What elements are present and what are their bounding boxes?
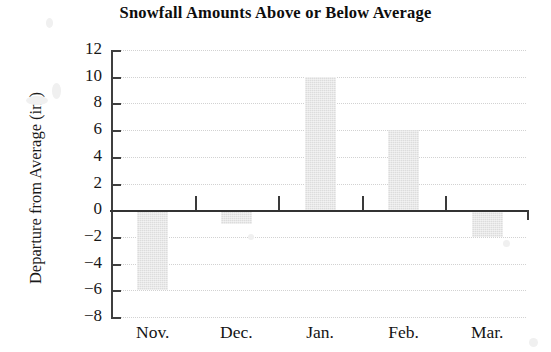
scan-speckle <box>46 18 53 28</box>
y-axis-tick <box>111 264 121 266</box>
y-axis-tick-label: −4 <box>60 253 102 273</box>
y-axis-tick-label: 10 <box>60 66 102 86</box>
x-axis-tick-label: Nov. <box>111 322 195 343</box>
y-axis-tick-label: −8 <box>60 306 102 326</box>
scan-speckle <box>26 96 48 105</box>
x-axis-tick <box>278 196 280 210</box>
y-axis-tick <box>111 77 121 79</box>
scan-speckle <box>503 240 510 247</box>
y-axis-tick-label: 2 <box>60 173 102 193</box>
zero-baseline-end-tick <box>527 210 529 220</box>
y-axis-tick <box>111 290 121 292</box>
y-axis-tick <box>111 184 121 186</box>
scan-speckle <box>248 234 254 240</box>
y-axis-tick <box>111 130 121 132</box>
plot-area <box>111 50 529 317</box>
x-axis-tick <box>362 196 364 210</box>
gridline <box>111 264 526 265</box>
y-axis-tick-label: 0 <box>60 199 102 219</box>
y-axis-tick-label: −2 <box>60 226 102 246</box>
chart-title: Snowfall Amounts Above or Below Average <box>0 3 551 23</box>
y-axis-tick <box>111 50 121 52</box>
y-axis-tick-label: 4 <box>60 146 102 166</box>
x-axis-tick-label: Feb. <box>362 322 446 343</box>
gridline <box>111 237 526 238</box>
bar <box>221 210 252 223</box>
y-axis-tick <box>111 157 121 159</box>
bar <box>388 130 419 210</box>
y-axis-tick <box>111 237 121 239</box>
bar <box>472 210 503 237</box>
y-axis-tick <box>111 103 121 105</box>
x-axis-tick-label: Mar. <box>445 322 529 343</box>
gridline <box>111 317 526 318</box>
x-axis-tick <box>445 196 447 210</box>
x-axis-tick-label: Dec. <box>195 322 279 343</box>
y-axis-tick-label: −6 <box>60 279 102 299</box>
chart-figure: Snowfall Amounts Above or Below Average … <box>0 0 551 352</box>
scan-speckle <box>529 338 538 347</box>
scan-speckle <box>52 83 61 99</box>
y-axis-tick-label: 8 <box>60 92 102 112</box>
bar <box>305 77 336 211</box>
y-axis-tick-label: 12 <box>60 39 102 59</box>
x-axis-tick-label: Jan. <box>278 322 362 343</box>
gridline <box>111 290 526 291</box>
y-axis-tick <box>111 317 121 319</box>
y-axis-tick-label: 6 <box>60 119 102 139</box>
gridline <box>111 50 526 51</box>
x-axis-tick <box>195 196 197 210</box>
zero-baseline <box>110 210 529 212</box>
bar <box>137 210 168 290</box>
y-axis-title: Departure from Average (in.) <box>26 48 46 328</box>
